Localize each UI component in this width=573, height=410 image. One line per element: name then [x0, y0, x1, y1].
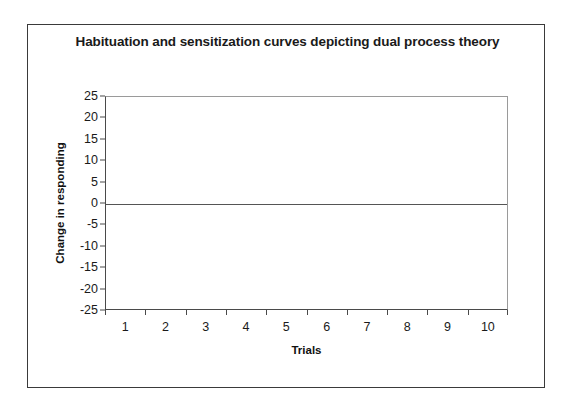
- x-axis-tick-label: 9: [444, 319, 451, 335]
- y-axis-tick-label: -20: [80, 282, 98, 295]
- x-axis-tick-label: 2: [162, 319, 169, 335]
- x-axis-tick-label: 7: [363, 319, 370, 335]
- y-axis-tick-label: 10: [84, 154, 98, 167]
- y-axis-tick-label: -15: [80, 261, 98, 274]
- y-axis-tick-label: 20: [84, 111, 98, 124]
- x-axis-tick-mark: [427, 310, 428, 315]
- x-axis-tick-label: 8: [404, 319, 411, 335]
- x-axis-tick-label: 4: [243, 319, 250, 335]
- x-axis-tick-label: 5: [283, 319, 290, 335]
- x-axis-tick-mark: [145, 310, 146, 315]
- x-axis-tick-mark: [105, 310, 106, 315]
- x-axis-tick-mark: [347, 310, 348, 315]
- chart-title: Habituation and sensitization curves dep…: [60, 31, 515, 52]
- x-axis-tick-mark: [387, 310, 388, 315]
- y-axis-tick-label: -10: [80, 239, 98, 252]
- chart-figure: Habituation and sensitization curves dep…: [0, 0, 573, 410]
- x-axis-tick-label: 10: [481, 319, 495, 335]
- y-axis-tick-label: 0: [91, 197, 98, 210]
- x-axis-tick-mark: [226, 310, 227, 315]
- x-axis-tick-mark: [468, 310, 469, 315]
- x-axis-title: Trials: [105, 344, 508, 356]
- x-axis-tick-labels: 12345678910: [105, 319, 508, 337]
- zero-reference-line: [106, 204, 507, 205]
- x-axis-tick-mark: [307, 310, 308, 315]
- y-axis-tick-label: 5: [91, 175, 98, 188]
- data-series-layer: [106, 97, 507, 309]
- y-axis-tick-label: -25: [80, 304, 98, 317]
- x-axis-tick-mark: [266, 310, 267, 315]
- x-axis-tick-label: 1: [122, 319, 129, 335]
- y-axis-tick-labels: 2520151050-5-10-15-20-25: [68, 96, 98, 310]
- y-axis-title: Change in responding: [52, 96, 68, 310]
- plot-area: [105, 96, 508, 310]
- x-axis-tick-label: 3: [202, 319, 209, 335]
- x-axis-tick-label: 6: [323, 319, 330, 335]
- x-axis-tick-marks: [105, 310, 508, 316]
- y-axis-tick-label: -5: [87, 218, 98, 231]
- y-axis-tick-label: 25: [84, 90, 98, 103]
- x-axis-tick-mark: [507, 310, 508, 315]
- y-axis-tick-label: 15: [84, 132, 98, 145]
- x-axis-tick-mark: [186, 310, 187, 315]
